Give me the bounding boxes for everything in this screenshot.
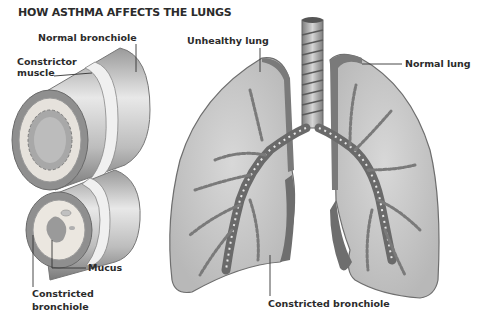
- label-unhealthy-lung: Unhealthy lung: [187, 35, 269, 47]
- diagram-artwork: [0, 0, 483, 335]
- label-normal-bronchiole: Normal bronchiole: [38, 32, 137, 44]
- label-constricted-bronchiole-line2: bronchiole: [32, 301, 89, 313]
- label-mucus: Mucus: [88, 262, 122, 274]
- label-constrictor-muscle-line2: muscle: [17, 67, 55, 79]
- lungs-illustration: [170, 17, 439, 298]
- label-normal-lung: Normal lung: [405, 58, 471, 70]
- label-constricted-bronchiole-lung: Constricted bronchiole: [268, 298, 390, 310]
- label-constricted-bronchiole-line1: Constricted: [32, 288, 94, 300]
